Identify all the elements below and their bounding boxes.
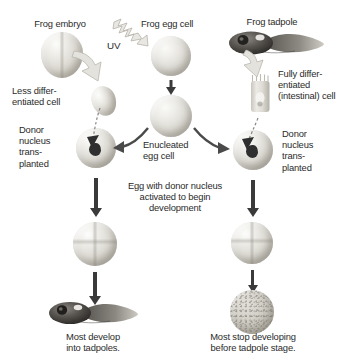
curved-branch-arrow-icon xyxy=(113,128,148,153)
down-arrow-icon xyxy=(166,80,176,95)
uv-lightning-bolt-icon xyxy=(113,19,148,46)
arrow-overlay xyxy=(0,0,345,361)
thick-curved-arrow-icon xyxy=(72,51,101,81)
dashed-nucleus-transfer-arrow-icon xyxy=(242,118,258,150)
thick-curved-arrow-icon xyxy=(243,50,263,77)
dashed-nucleus-transfer-arrow-icon xyxy=(87,108,100,148)
nuclear-transplantation-figure: Frog embryo UV Frog egg cell Frog tadpol… xyxy=(0,0,345,361)
curved-branch-arrow-icon xyxy=(194,128,230,154)
